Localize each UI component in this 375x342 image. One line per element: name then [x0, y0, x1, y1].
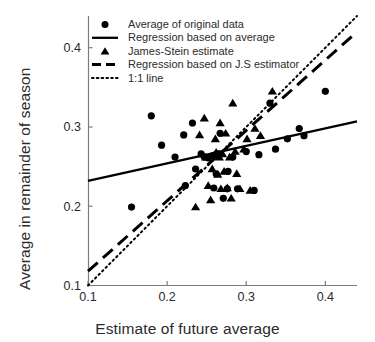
legend-label: Regression based on average	[128, 31, 275, 43]
data-point-circle	[272, 146, 279, 153]
data-point-triangle	[250, 124, 259, 132]
data-point-triangle	[206, 195, 215, 203]
x-tick-label: 0.3	[238, 290, 255, 304]
data-point-triangle	[200, 114, 209, 122]
data-point-triangle	[268, 87, 277, 95]
data-point-circle	[322, 88, 329, 95]
y-tick-label: 0.2	[64, 200, 81, 214]
data-point-circle	[255, 151, 262, 158]
data-point-triangle	[256, 131, 265, 139]
legend-circle-icon	[102, 21, 109, 28]
x-axis-title: Estimate of future average	[0, 320, 375, 338]
data-point-triangle	[204, 181, 213, 189]
data-point-triangle	[195, 130, 204, 138]
legend-label: Regression based on J.S estimator	[128, 58, 300, 70]
data-point-circle	[171, 153, 178, 160]
data-point-circle	[296, 125, 303, 132]
data-point-circle	[300, 132, 307, 139]
data-point-circle	[192, 165, 199, 172]
data-point-circle	[158, 142, 165, 149]
x-tick-label: 0.2	[158, 290, 175, 304]
data-point-triangle	[191, 203, 200, 211]
legend-label: James-Stein estimate	[128, 45, 234, 57]
legend-label: 1:1 line	[128, 72, 163, 84]
legend-label: Average of original data	[128, 18, 245, 30]
data-point-triangle	[232, 169, 241, 177]
x-axis-ticks: 0.10.20.30.4	[79, 281, 334, 304]
x-tick-label: 0.4	[317, 290, 334, 304]
y-tick-label: 0.3	[64, 120, 81, 134]
scatter-plot-figure: 0.10.20.30.4 0.10.20.30.4 Average of ori…	[0, 0, 375, 342]
data-point-circle	[148, 112, 155, 119]
y-tick-label: 0.4	[64, 41, 81, 55]
data-point-triangle	[228, 99, 237, 107]
data-point-circle	[220, 195, 227, 202]
plot-canvas: 0.10.20.30.4 0.10.20.30.4 Average of ori…	[0, 0, 375, 342]
x-tick-label: 0.1	[79, 290, 96, 304]
data-point-circle	[182, 182, 189, 189]
data-point-triangle	[242, 134, 251, 142]
data-point-triangle	[208, 165, 217, 173]
data-point-circle	[189, 119, 196, 126]
chart-legend: Average of original dataRegression based…	[92, 18, 300, 84]
y-tick-label: 0.1	[64, 279, 81, 293]
data-point-triangle	[227, 194, 236, 202]
y-axis-title: Average in remainder of season	[16, 68, 34, 290]
data-point-circle	[128, 203, 135, 210]
data-point-circle	[180, 131, 187, 138]
data-point-circle	[284, 135, 291, 142]
data-point-triangle	[216, 119, 225, 127]
legend-triangle-icon	[101, 47, 110, 54]
data-point-circle	[266, 100, 273, 107]
